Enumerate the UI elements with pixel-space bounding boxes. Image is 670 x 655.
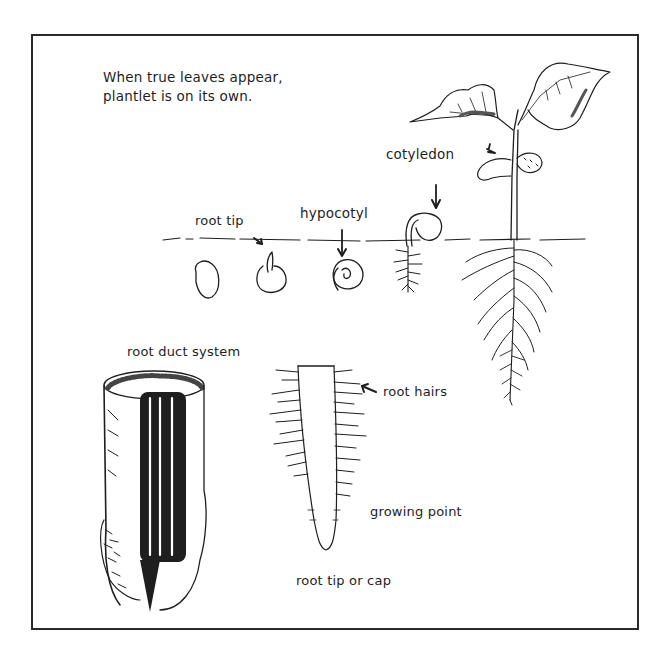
seed-icon	[196, 261, 219, 298]
hypocotyl-seed-icon	[333, 230, 363, 290]
illustration	[0, 0, 670, 655]
root-tip-diagram-icon	[270, 366, 376, 550]
soil-line	[163, 238, 585, 241]
germinating-seed-icon	[254, 238, 286, 292]
emerging-seedling-icon	[394, 185, 442, 292]
root-cross-section-icon	[101, 371, 206, 612]
